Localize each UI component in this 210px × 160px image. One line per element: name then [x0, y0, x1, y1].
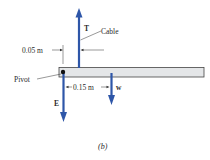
beam: [59, 68, 204, 78]
cable-label: Cable: [101, 27, 119, 36]
tension-arrow-icon: [76, 8, 83, 68]
tension-label: T: [84, 24, 89, 33]
cable-distance-label: 0.05 m: [22, 46, 43, 55]
pivot-label: Pivot: [14, 75, 31, 84]
free-body-diagram: T Cable 0.05 m Pivot 0.15 m w E (b): [0, 0, 210, 160]
pivot-force-arrow-icon: [60, 72, 67, 122]
weight-label: w: [116, 83, 122, 92]
figure-caption: (b): [98, 142, 108, 151]
pivot-point-icon: [61, 70, 65, 74]
weight-distance-label: 0.15 m: [73, 83, 94, 92]
pivot-leader-line: [37, 74, 61, 79]
weight-arrow-icon: [108, 73, 115, 105]
pivot-force-label: E: [54, 99, 59, 108]
